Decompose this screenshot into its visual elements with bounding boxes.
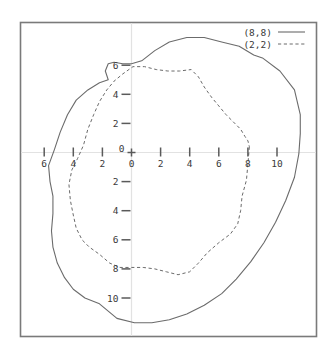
plot-frame xyxy=(21,23,317,337)
y-tick-label: 10 xyxy=(107,293,119,304)
y-tick-label: 2 xyxy=(113,176,119,187)
y-tick-label: 8 xyxy=(113,263,119,274)
polar-curve-chart: 64202468106420246810 (8,8)(2,2) xyxy=(0,0,331,361)
x-tick-label: 4 xyxy=(70,158,76,169)
y-tick-label: 4 xyxy=(113,89,119,100)
y-tick-label: 6 xyxy=(113,234,119,245)
legend-label-2: (2,2) xyxy=(243,39,272,50)
x-tick-label: 8 xyxy=(245,158,251,169)
series-curve-1 xyxy=(49,38,301,323)
x-tick-label: 4 xyxy=(187,158,193,169)
chart-legend: (8,8)(2,2) xyxy=(243,27,305,50)
axes xyxy=(21,23,316,336)
legend-label-1: (8,8) xyxy=(243,27,272,38)
y-tick-label: 6 xyxy=(113,60,119,71)
x-tick-label: 0 xyxy=(129,158,135,169)
y-tick-label: 2 xyxy=(113,118,119,129)
x-tick-label: 6 xyxy=(41,158,47,169)
y-tick-label: 4 xyxy=(113,205,119,216)
x-tick-label: 2 xyxy=(158,158,164,169)
series-curve-2 xyxy=(69,67,249,275)
chart-container: 64202468106420246810 (8,8)(2,2) xyxy=(0,0,331,361)
x-tick-label: 10 xyxy=(271,158,283,169)
x-tick-label: 6 xyxy=(216,158,222,169)
data-curves xyxy=(49,38,301,323)
x-tick-label: 2 xyxy=(100,158,106,169)
origin-label: 0 xyxy=(119,143,125,154)
